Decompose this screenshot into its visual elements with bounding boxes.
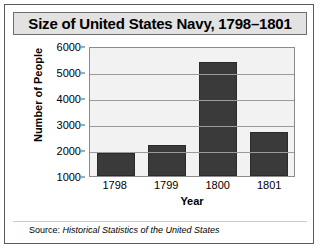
chart-figure: Size of United States Navy, 1798–1801 Nu… <box>4 4 314 244</box>
y-tick-mark <box>81 73 85 74</box>
y-tick-mark <box>81 125 85 126</box>
source-title: Historical Statistics of the United Stat… <box>63 225 220 235</box>
bar-1799 <box>148 145 186 176</box>
x-tick-label: 1798 <box>93 179 137 191</box>
source-label: Source: <box>29 225 60 235</box>
source-note: Source: Historical Statistics of the Uni… <box>13 221 307 238</box>
y-tick-label: 2000 <box>57 145 81 157</box>
gridline <box>90 100 294 101</box>
y-tick-mark <box>81 151 85 152</box>
y-tick-label: 3000 <box>57 119 81 131</box>
bar-1801 <box>250 132 288 176</box>
y-axis-ticks: 600050004000300020001000 <box>43 47 85 177</box>
y-tick-label: 4000 <box>57 93 81 105</box>
x-axis-label: Year <box>89 195 295 207</box>
gridline <box>90 74 294 75</box>
y-tick-mark <box>81 99 85 100</box>
y-tick-mark <box>81 47 85 48</box>
y-tick-mark <box>81 177 85 178</box>
chart-region: Number of People 60005000400030002000100… <box>13 39 307 217</box>
gridline <box>90 152 294 153</box>
page-title: Size of United States Navy, 1798–1801 <box>28 15 291 32</box>
x-axis-ticks: 1798179918001801 <box>89 179 295 191</box>
bar-1800 <box>199 62 237 176</box>
bar-series <box>90 48 294 176</box>
y-tick-label: 1000 <box>57 171 81 183</box>
x-tick-label: 1800 <box>196 179 240 191</box>
x-tick-label: 1801 <box>247 179 291 191</box>
x-tick-label: 1799 <box>144 179 188 191</box>
gridline <box>90 126 294 127</box>
chart-title-bar: Size of United States Navy, 1798–1801 <box>13 12 307 35</box>
bar-1798 <box>97 153 135 176</box>
plot-area <box>89 47 295 177</box>
y-tick-label: 6000 <box>57 41 81 53</box>
y-tick-label: 5000 <box>57 67 81 79</box>
